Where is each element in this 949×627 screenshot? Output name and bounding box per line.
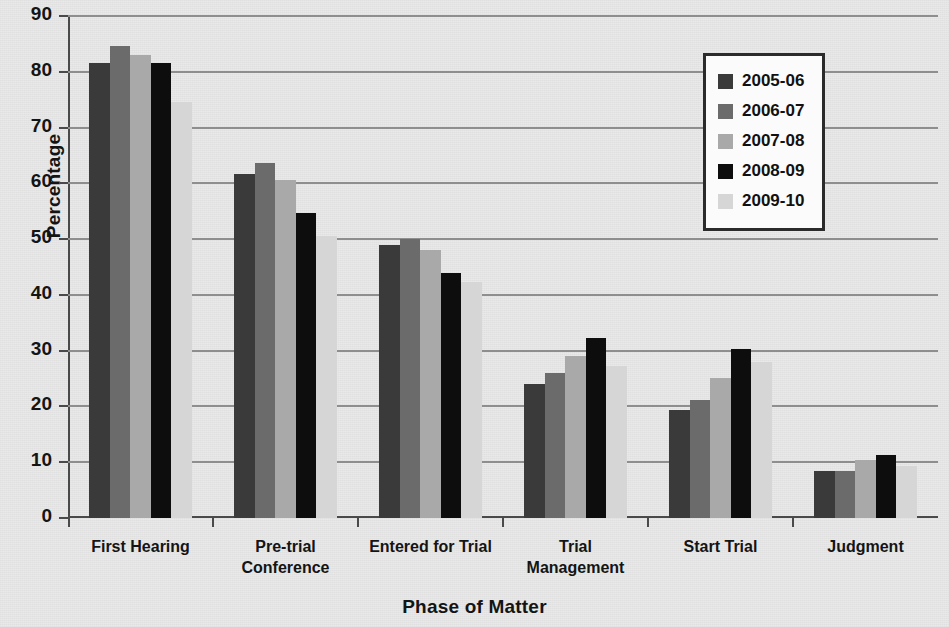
gridline-10 — [68, 461, 938, 463]
legend-item-2009-10: 2009-10 — [706, 186, 822, 216]
y-tick-label-90: 90 — [8, 3, 52, 25]
bar-2005-06-0 — [89, 63, 110, 518]
y-tick-label-20: 20 — [8, 393, 52, 415]
bar-2009-10-1 — [316, 236, 337, 518]
bar-2008-09-4 — [731, 349, 752, 518]
y-tick-label-0: 0 — [8, 505, 52, 527]
bar-2009-10-2 — [461, 282, 482, 518]
bar-2007-08-5 — [855, 460, 876, 518]
bar-2006-07-2 — [400, 239, 421, 518]
bar-2009-10-4 — [751, 362, 772, 518]
y-tick-label-30: 30 — [8, 338, 52, 360]
bar-2008-09-3 — [586, 338, 607, 518]
category-label-4: Start Trial — [648, 536, 793, 557]
y-tick-label-40: 40 — [8, 282, 52, 304]
legend-item-2005-06: 2005-06 — [706, 66, 822, 96]
y-tick-label-80: 80 — [8, 59, 52, 81]
bar-2008-09-5 — [876, 455, 897, 518]
bar-2008-09-0 — [151, 63, 172, 518]
x-tick-mark-4 — [792, 516, 794, 527]
x-tick-mark-3 — [647, 516, 649, 527]
gridline-20 — [68, 405, 938, 407]
legend-item-2008-09: 2008-09 — [706, 156, 822, 186]
bar-2008-09-1 — [296, 213, 317, 518]
category-label-line: Entered for Trial — [358, 536, 503, 557]
legend-item-2007-08: 2007-08 — [706, 126, 822, 156]
category-label-line: Start Trial — [648, 536, 793, 557]
bar-2006-07-4 — [690, 400, 711, 518]
x-tick-mark-2 — [502, 516, 504, 527]
bar-2005-06-4 — [669, 410, 690, 518]
y-tick-mark-50 — [59, 238, 68, 240]
y-tick-label-60: 60 — [8, 170, 52, 192]
y-tick-mark-70 — [59, 127, 68, 129]
y-tick-label-10: 10 — [8, 449, 52, 471]
category-label-line: Judgment — [793, 536, 938, 557]
bar-2007-08-4 — [710, 378, 731, 518]
bar-2009-10-0 — [171, 102, 192, 518]
y-tick-mark-90 — [59, 15, 68, 17]
gridline-30 — [68, 350, 938, 352]
bar-2007-08-2 — [420, 250, 441, 518]
bar-2005-06-3 — [524, 384, 545, 518]
bar-2007-08-1 — [275, 180, 296, 518]
y-tick-mark-10 — [59, 461, 68, 463]
bar-2006-07-0 — [110, 46, 131, 518]
bar-2005-06-1 — [234, 174, 255, 518]
legend-label: 2007-08 — [742, 131, 804, 151]
x-axis-title: Phase of Matter — [0, 596, 949, 618]
y-tick-mark-0 — [59, 517, 68, 519]
legend-label: 2008-09 — [742, 161, 804, 181]
category-label-line: Management — [503, 557, 648, 578]
category-label-line: Trial — [503, 536, 648, 557]
gridline-40 — [68, 294, 938, 296]
gridline-90 — [68, 15, 938, 17]
y-tick-label-70: 70 — [8, 115, 52, 137]
bar-2008-09-2 — [441, 273, 462, 518]
legend-swatch-icon — [718, 134, 733, 149]
category-label-line: Pre-trial — [213, 536, 358, 557]
bar-2006-07-3 — [545, 373, 566, 518]
bar-2006-07-5 — [835, 471, 856, 518]
category-label-line: First Hearing — [68, 536, 213, 557]
bar-2006-07-1 — [255, 163, 276, 518]
y-tick-label-50: 50 — [8, 226, 52, 248]
bar-2009-10-5 — [896, 466, 917, 518]
y-axis-line — [68, 16, 70, 518]
bar-2005-06-2 — [379, 245, 400, 518]
legend-swatch-icon — [718, 194, 733, 209]
category-label-3: TrialManagement — [503, 536, 648, 578]
bar-2009-10-3 — [606, 366, 627, 518]
legend-swatch-icon — [718, 104, 733, 119]
legend: 2005-062006-072007-082008-092009-10 — [703, 53, 825, 231]
bar-2005-06-5 — [814, 471, 835, 518]
x-tick-mark-1 — [357, 516, 359, 527]
y-tick-mark-40 — [59, 294, 68, 296]
gridline-50 — [68, 238, 938, 240]
category-label-line: Conference — [213, 557, 358, 578]
bar-2007-08-3 — [565, 356, 586, 518]
legend-item-2006-07: 2006-07 — [706, 96, 822, 126]
y-tick-mark-60 — [59, 182, 68, 184]
x-tick-mark-origin — [68, 516, 70, 527]
y-tick-mark-80 — [59, 71, 68, 73]
category-label-1: Pre-trialConference — [213, 536, 358, 578]
legend-label: 2009-10 — [742, 191, 804, 211]
category-label-5: Judgment — [793, 536, 938, 557]
legend-label: 2006-07 — [742, 101, 804, 121]
category-label-0: First Hearing — [68, 536, 213, 557]
x-tick-mark-0 — [212, 516, 214, 527]
bar-chart: Percentage 9080706050403020100 First Hea… — [0, 0, 949, 627]
bar-2007-08-0 — [130, 55, 151, 518]
legend-swatch-icon — [718, 74, 733, 89]
legend-label: 2005-06 — [742, 71, 804, 91]
legend-swatch-icon — [718, 164, 733, 179]
y-tick-mark-30 — [59, 350, 68, 352]
category-label-2: Entered for Trial — [358, 536, 503, 557]
y-tick-mark-20 — [59, 405, 68, 407]
